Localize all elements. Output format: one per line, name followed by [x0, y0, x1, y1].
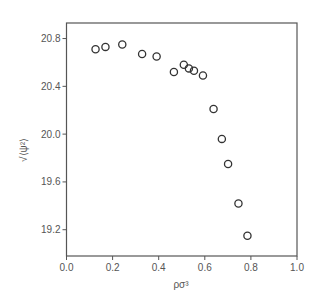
- data-point-marker: [119, 41, 126, 48]
- data-point-marker: [210, 105, 217, 112]
- data-point-marker: [92, 46, 99, 53]
- x-tick-label: 0.2: [106, 262, 120, 273]
- y-tick-label: 20.8: [41, 33, 61, 44]
- y-axis-ticks: 19.219.620.020.420.8: [41, 33, 66, 235]
- data-points: [92, 41, 251, 239]
- data-point-marker: [102, 43, 109, 50]
- y-tick-label: 20.0: [41, 129, 61, 140]
- data-point-marker: [218, 135, 225, 142]
- data-point-marker: [153, 53, 160, 60]
- y-tick-label: 20.4: [41, 81, 61, 92]
- data-point-marker: [180, 61, 187, 68]
- x-tick-label: 0.4: [152, 262, 166, 273]
- data-point-marker: [244, 232, 251, 239]
- x-tick-label: 0.6: [198, 262, 212, 273]
- x-tick-label: 0.8: [244, 262, 258, 273]
- y-tick-label: 19.6: [41, 176, 61, 187]
- scatter-chart: 0.00.20.40.60.81.0 19.219.620.020.420.8 …: [0, 0, 321, 304]
- x-axis-ticks: 0.00.20.40.60.81.0: [60, 256, 305, 273]
- data-point-marker: [199, 72, 206, 79]
- x-tick-label: 0.0: [60, 262, 74, 273]
- x-tick-label: 1.0: [290, 262, 304, 273]
- data-point-marker: [139, 50, 146, 57]
- y-tick-label: 19.2: [41, 224, 61, 235]
- plot-frame: [67, 23, 298, 256]
- x-axis-label: ρσ³: [173, 279, 189, 290]
- data-point-marker: [235, 200, 242, 207]
- y-axis-label: √⟨ψ²⟩: [18, 138, 29, 162]
- data-point-marker: [170, 68, 177, 75]
- data-point-marker: [224, 160, 231, 167]
- plot-border: [67, 23, 298, 256]
